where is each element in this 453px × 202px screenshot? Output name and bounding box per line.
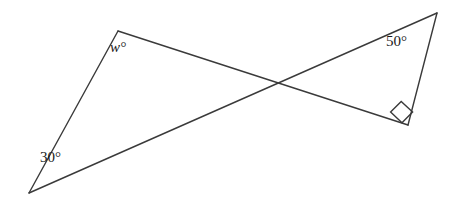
angle-label-30: 30°: [40, 150, 61, 165]
geometry-figure: w° 30° 50°: [0, 0, 453, 202]
segment-left-edge: [29, 31, 118, 193]
angle-label-50: 50°: [386, 34, 407, 49]
angle-label-w: w°: [110, 40, 126, 55]
figure-canvas: [0, 0, 453, 202]
segment-bottom-left-to-top-right: [29, 13, 437, 193]
segment-right-edge: [408, 13, 437, 125]
